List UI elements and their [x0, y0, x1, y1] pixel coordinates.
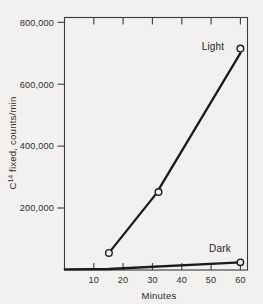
plot-frame	[65, 18, 248, 271]
y-axis-title: C14 fixed, counts/min	[7, 97, 19, 190]
x-axis-ticks-top	[94, 18, 241, 25]
series-label-light: Light	[202, 41, 225, 52]
y-axis-title-rest: fixed, counts/min	[7, 97, 18, 175]
y-axis-title-base: C	[7, 182, 18, 189]
y-tick-label-800000: 800,000	[20, 18, 54, 28]
x-tick-label-40: 40	[177, 275, 188, 285]
series-label-dark: Dark	[209, 243, 232, 254]
y-tick-label-200000: 200,000	[20, 203, 54, 213]
series-line-light	[109, 53, 241, 253]
x-tick-label-30: 30	[147, 275, 158, 285]
data-point-dark-60	[237, 259, 243, 265]
x-tick-label-60: 60	[235, 275, 246, 285]
line-chart: 800,000 600,000 400,000 200,000 10 20 30…	[0, 0, 263, 304]
y-tick-label-400000: 400,000	[20, 141, 54, 151]
chart-figure: 800,000 600,000 400,000 200,000 10 20 30…	[0, 0, 263, 304]
x-tick-label-50: 50	[206, 275, 217, 285]
data-point-light-60	[237, 45, 244, 52]
x-tick-label-20: 20	[118, 275, 129, 285]
x-tick-label-10: 10	[89, 275, 100, 285]
data-point-light-15	[106, 250, 113, 257]
data-point-light-31	[155, 189, 162, 196]
y-tick-label-600000: 600,000	[20, 80, 54, 90]
x-axis-title: Minutes	[142, 290, 177, 301]
y-axis-ticks	[58, 22, 65, 208]
